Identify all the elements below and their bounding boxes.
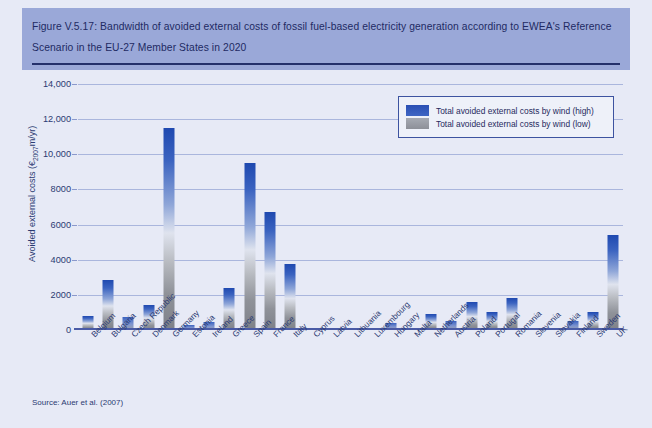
bar-group [118, 84, 138, 330]
bar-group [320, 84, 340, 330]
y-axis-tick-label: 4000 [51, 255, 71, 265]
bar-group [300, 84, 320, 330]
y-axis-tick-label: 10,000 [43, 149, 71, 159]
bar-group [199, 84, 219, 330]
legend-swatch-high [406, 105, 429, 116]
y-axis-tick-label: 12,000 [43, 114, 71, 124]
y-axis-tick [72, 225, 77, 226]
legend-label-high: Total avoided external costs by wind (hi… [436, 106, 594, 116]
y-axis-tick [72, 154, 77, 155]
plot-area: Avoided external costs (€2007m/yr) 02000… [0, 70, 652, 428]
figure-container: Figure V.5.17: Bandwidth of avoided exte… [0, 0, 652, 428]
title-divider [32, 63, 620, 65]
y-axis-label-subscript: 2007 [32, 146, 39, 161]
bar-group [239, 84, 259, 330]
bar-group [78, 84, 98, 330]
figure-title: Figure V.5.17: Bandwidth of avoided exte… [32, 16, 620, 58]
figure-source: Source: Auer et al. (2007) [32, 398, 123, 407]
y-axis-tick-label: 2000 [51, 290, 71, 300]
legend-item: Total avoided external costs by wind (hi… [406, 105, 605, 116]
bar-group [139, 84, 159, 330]
bar-group [219, 84, 239, 330]
y-axis-tick [72, 260, 77, 261]
y-axis-label: Avoided external costs (€2007m/yr) [27, 99, 39, 289]
bar-group [361, 84, 381, 330]
y-axis-label-suffix: m/yr) [27, 126, 37, 147]
y-axis-tick-label: 14,000 [43, 79, 71, 89]
y-axis-tick [72, 189, 77, 190]
y-axis-tick [72, 119, 77, 120]
bar-group [260, 84, 280, 330]
y-axis-tick-label: 0 [66, 325, 71, 335]
bar-group [340, 84, 360, 330]
y-axis-tick-label: 8000 [51, 184, 71, 194]
legend-label-low: Total avoided external costs by wind (lo… [436, 119, 591, 129]
chart-legend: Total avoided external costs by wind (hi… [398, 96, 614, 138]
bar-group [98, 84, 118, 330]
bar [264, 212, 275, 330]
bar-group [280, 84, 300, 330]
x-axis-labels: BelgiumBulgariaCzech RepublicDenmarkGerm… [78, 332, 623, 422]
y-axis-tick [72, 84, 77, 85]
legend-swatch-low [406, 118, 429, 129]
bar [244, 163, 255, 330]
y-axis-tick-label: 6000 [51, 220, 71, 230]
bar-group [179, 84, 199, 330]
legend-item: Total avoided external costs by wind (lo… [406, 118, 605, 129]
y-axis-label-prefix: Avoided external costs (€ [27, 161, 37, 262]
y-axis-tick [72, 295, 77, 296]
